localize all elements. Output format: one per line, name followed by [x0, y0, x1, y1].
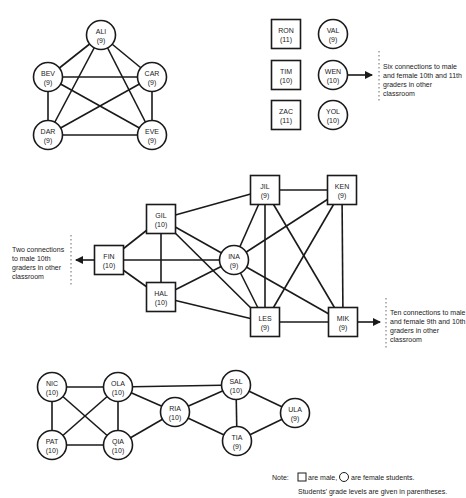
node-les: LES(9): [251, 308, 280, 337]
node-name: NIC: [46, 380, 58, 387]
edge-ken-mik: [342, 190, 343, 322]
node-grade: (10): [230, 387, 242, 395]
node-name: HAL: [154, 290, 168, 297]
node-grade: (9): [148, 137, 157, 145]
node-name: INA: [228, 253, 240, 260]
female-circle-icon: [319, 101, 348, 130]
node-grade: (9): [97, 37, 106, 45]
nodes: ALI(9)BEV(9)CAR(9)DAR(9)EVE(9)RON(11)VAL…: [34, 20, 358, 460]
node-ina: INA(9): [220, 246, 249, 275]
node-name: ULA: [288, 406, 302, 413]
node-qia: QIA(10): [104, 431, 133, 460]
node-jil: JIL(9): [251, 176, 280, 205]
node-hal: HAL(10): [147, 283, 176, 312]
node-name: KEN: [335, 183, 349, 190]
male-square-icon: [147, 283, 176, 312]
female-circle-icon: [340, 473, 349, 482]
node-name: TIA: [232, 434, 243, 441]
female-circle-icon: [319, 61, 348, 90]
edge-hal-les: [161, 297, 265, 322]
node-name: RON: [278, 27, 294, 34]
node-grade: (9): [261, 324, 270, 332]
node-grade: (10): [155, 221, 167, 229]
fin-annotation: Two connections to male 10th graders in …: [12, 245, 70, 281]
female-circle-icon: [87, 21, 116, 50]
female-circle-icon: [138, 121, 167, 150]
male-square-icon: [329, 308, 358, 337]
female-circle-icon: [104, 431, 133, 460]
male-square-icon: [272, 61, 301, 90]
node-name: OLA: [111, 380, 125, 387]
node-ali: ALI(9): [87, 21, 116, 50]
female-circle-icon: [138, 63, 167, 92]
node-grade: (9): [338, 192, 347, 200]
node-grade: (9): [44, 79, 53, 87]
node-gil: GIL(10): [147, 205, 176, 234]
female-circle-icon: [319, 20, 348, 49]
edge-ola-sal: [118, 385, 236, 387]
edge-gil-jil: [161, 190, 265, 219]
node-name: WEN: [325, 68, 341, 75]
node-wen: WEN(10): [319, 61, 348, 90]
male-square-icon: [272, 101, 301, 130]
node-ken: KEN(9): [328, 176, 357, 205]
node-name: CAR: [145, 70, 160, 77]
node-name: QIA: [112, 438, 124, 446]
male-square-icon: [95, 246, 124, 275]
node-grade: (10): [155, 299, 167, 307]
node-name: ALI: [96, 28, 107, 35]
node-tim: TIM(10): [272, 61, 301, 90]
node-zac: ZAC(11): [272, 101, 301, 130]
male-square-icon: [272, 20, 301, 49]
node-grade: (9): [339, 324, 348, 332]
node-grade: (9): [148, 79, 157, 87]
note-male: are male,: [308, 473, 337, 482]
node-grade: (9): [329, 36, 338, 44]
node-val: VAL(9): [319, 20, 348, 49]
node-name: BEV: [41, 70, 55, 77]
female-circle-icon: [220, 246, 249, 275]
node-name: PAT: [46, 438, 59, 445]
node-name: MIK: [337, 315, 350, 322]
node-grade: (10): [327, 77, 339, 85]
node-grade: (10): [280, 77, 292, 85]
node-grade: (10): [46, 389, 58, 397]
node-name: VAL: [327, 27, 340, 34]
node-grade: (10): [327, 117, 339, 125]
node-grade: (9): [233, 443, 242, 451]
female-circle-icon: [34, 121, 63, 150]
node-name: RIA: [169, 405, 181, 412]
node-name: JIL: [260, 183, 269, 190]
female-circle-icon: [38, 373, 67, 402]
female-circle-icon: [104, 373, 133, 402]
node-grade: (9): [44, 137, 53, 145]
node-name: DAR: [41, 128, 56, 135]
node-grade: (11): [280, 36, 292, 44]
node-name: LES: [258, 315, 272, 322]
node-grade: (9): [291, 415, 300, 423]
node-ria: RIA(10): [161, 398, 190, 427]
node-bev: BEV(9): [34, 63, 63, 92]
female-circle-icon: [34, 63, 63, 92]
female-circle-icon: [161, 398, 190, 427]
node-name: TIM: [280, 68, 292, 75]
node-car: CAR(9): [138, 63, 167, 92]
female-circle-icon: [38, 431, 67, 460]
node-name: ZAC: [279, 108, 293, 115]
male-square-icon: [251, 176, 280, 205]
node-ron: RON(11): [272, 20, 301, 49]
note-grades: Students' grade levels are given in pare…: [298, 487, 447, 496]
node-name: EVE: [145, 128, 159, 135]
mik-annotation: Ten connections to male and female 9th a…: [390, 308, 466, 344]
node-grade: (10): [46, 447, 58, 455]
female-circle-icon: [222, 371, 251, 400]
node-grade: (9): [230, 262, 239, 270]
note-female: are female students.: [351, 473, 414, 482]
node-grade: (11): [280, 117, 292, 125]
node-grade: (9): [261, 192, 270, 200]
female-circle-icon: [223, 427, 252, 456]
node-name: GIL: [155, 212, 166, 219]
node-ola: OLA(10): [104, 373, 133, 402]
note-label: Note:: [272, 473, 289, 482]
male-square-icon: [298, 473, 306, 481]
